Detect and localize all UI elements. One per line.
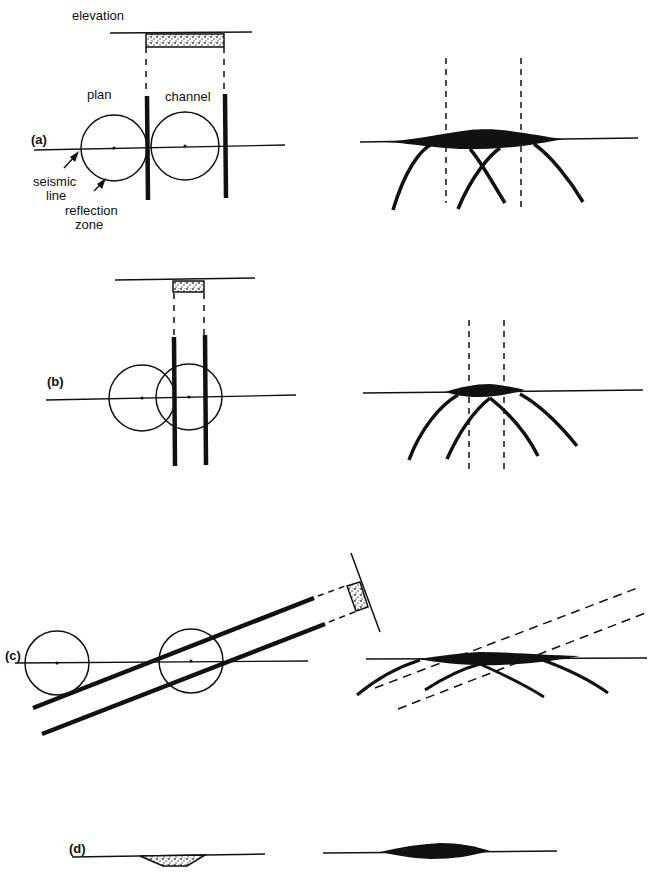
- seismic-channel-figure: elevation plan channel (a): [0, 0, 663, 882]
- plan-label: plan: [87, 87, 112, 102]
- channel-edge: [225, 94, 226, 198]
- elevation-section-c: [347, 553, 380, 632]
- seismic-section-c: [357, 587, 648, 709]
- cross-section-d: [72, 854, 265, 866]
- arrow-icon: [64, 151, 79, 168]
- seismic-section-a: [360, 58, 638, 212]
- channel-label: channel: [165, 89, 211, 104]
- arrow-icon: [94, 178, 106, 191]
- seismic-line-label-2: line: [46, 188, 66, 203]
- reflection-zone-label: reflection: [65, 203, 118, 218]
- panel-label-c: (c): [5, 648, 21, 663]
- channel-edge: [147, 96, 148, 200]
- panel-c: (c): [5, 553, 648, 734]
- reflection-zone-label-2: zone: [75, 217, 103, 232]
- seismic-section-d: [323, 843, 557, 859]
- panel-label-a: (a): [31, 132, 47, 147]
- panel-b: (b): [46, 278, 643, 472]
- elevation-label: elevation: [72, 8, 124, 23]
- elevation-section-a: [110, 32, 252, 95]
- panel-label-d: (d): [69, 841, 86, 856]
- channel-edge: [33, 598, 314, 708]
- channel-edge: [205, 335, 206, 465]
- elevation-section-b: [115, 278, 255, 335]
- seismic-line-label: seismic: [33, 174, 77, 189]
- channel-edge: [174, 337, 175, 466]
- panel-a: elevation plan channel (a): [31, 8, 638, 232]
- plan-view-c: [15, 585, 357, 734]
- plan-view-b: [46, 335, 296, 466]
- panel-d: (d): [69, 841, 557, 866]
- seismic-section-b: [363, 320, 643, 472]
- panel-label-b: (b): [47, 374, 64, 389]
